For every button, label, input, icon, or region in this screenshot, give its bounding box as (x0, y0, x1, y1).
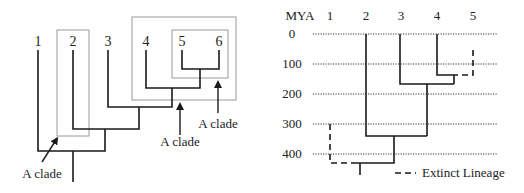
left-taxon-label-1: 1 (35, 34, 42, 49)
branch-4 (437, 34, 454, 75)
clade-label-taxa-4-6: A clade (160, 134, 200, 149)
axis-title-mya: MYA (286, 8, 316, 23)
extinct-branch-1 (330, 124, 354, 163)
left-cladogram: 1 2 3 4 5 6 A clade A clade A clade (22, 17, 238, 182)
extinct-branch-5 (454, 50, 473, 75)
right-taxon-label-3: 3 (398, 8, 405, 23)
left-taxon-label-2: 2 (70, 34, 77, 49)
branch-3-45 (400, 34, 454, 84)
left-taxon-label-4: 4 (143, 34, 150, 49)
branch-2-345 (366, 34, 427, 136)
right-taxon-label-1: 1 (327, 8, 334, 23)
clade-label-taxon-2: A clade (22, 166, 62, 181)
left-taxon-label-5: 5 (179, 34, 186, 49)
branch-3-456 (108, 50, 172, 107)
branch-5-6 (182, 50, 219, 69)
right-chronogram: MYA 1 2 3 4 5 0 100 200 300 400 Extinct … (282, 8, 505, 180)
right-taxon-label-2: 2 (363, 8, 370, 23)
tick-label-0: 0 (289, 26, 296, 41)
branch-2-3456 (73, 50, 139, 129)
node-2-345 (354, 136, 394, 163)
tick-label-100: 100 (282, 56, 302, 71)
right-taxon-label-5: 5 (470, 8, 477, 23)
legend-extinct-lineage: Extinct Lineage (422, 165, 505, 180)
tick-label-400: 400 (282, 146, 302, 161)
clade-label-taxa-5-6: A clade (198, 116, 238, 131)
tick-label-300: 300 (282, 116, 302, 131)
right-taxon-label-4: 4 (434, 8, 441, 23)
left-taxon-label-6: 6 (216, 34, 223, 49)
tick-label-200: 200 (282, 86, 302, 101)
left-taxon-label-3: 3 (105, 34, 112, 49)
phylogeny-figure: 1 2 3 4 5 6 A clade A clade A clade MYA … (0, 0, 524, 193)
